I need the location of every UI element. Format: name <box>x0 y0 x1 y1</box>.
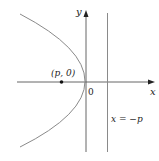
focus-label: (p, 0) <box>51 68 76 78</box>
origin-label: 0 <box>88 87 94 97</box>
y-axis-label: y <box>75 6 82 17</box>
focus-point <box>60 80 64 84</box>
x-axis-label: x <box>150 86 156 97</box>
directrix-label: x = −p <box>111 114 143 124</box>
y-axis-arrow-icon <box>84 10 89 17</box>
parabola-diagram: y x 0 (p, 0) x = −p <box>0 0 159 161</box>
parabola-curve <box>20 14 85 147</box>
x-axis-arrow-icon <box>148 80 155 85</box>
y-axis <box>84 10 89 152</box>
